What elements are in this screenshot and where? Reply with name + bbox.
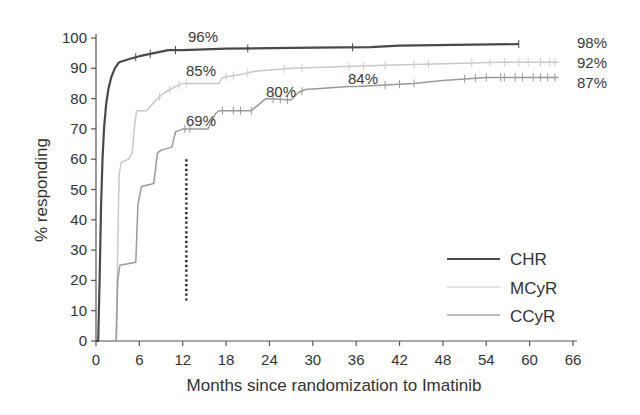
y-tick-label: 0 [79,332,87,349]
series-layer [96,40,559,341]
legend-item-mcyr: MCyR [447,279,557,298]
curve-ccyr [96,77,559,341]
legend-label-chr: CHR [510,250,547,269]
y-tick-label: 30 [70,241,87,258]
x-tick-label: 18 [218,351,235,368]
x-tick-label: 42 [391,351,408,368]
x-tick-label: 66 [565,351,582,368]
x-tick-label: 12 [174,351,191,368]
legend-item-chr: CHR [447,250,547,269]
x-tick-label: 48 [435,351,452,368]
legend-label-mcyr: MCyR [510,279,557,298]
legend: CHR MCyR CCyR [447,250,557,326]
y-tick-label: 10 [70,302,87,319]
legend-item-ccyr: CCyR [447,307,555,326]
y-tick-label: 60 [70,150,87,167]
y-tick-label: 90 [70,59,87,76]
series-ccyr [96,73,559,341]
annotation-chr-98pct: 98% [577,34,607,51]
annotation-ccyr-69pct: 69% [186,112,216,129]
annotation-ccyr-87pct: 87% [577,74,607,91]
y-tick-label: 50 [70,181,87,198]
x-tick-label: 54 [478,351,495,368]
series-chr [96,40,519,341]
x-tick-label: 60 [521,351,538,368]
x-tick-label: 0 [92,351,100,368]
y-axis-title: % responding [32,138,51,242]
annotation-chr-96pct: 96% [188,28,218,45]
series-mcyr [96,58,559,341]
annotation-mcyr-92pct: 92% [577,54,607,71]
x-axis-title: Months since randomization to Imatinib [187,376,482,395]
annotations: 96%85%69%80%84%98%92%87% [186,28,607,129]
y-tick-label: 70 [70,120,87,137]
annotation-ccyr-80pct: 80% [266,83,296,100]
annotation-mcyr-85pct: 85% [186,62,216,79]
annotation-ccyr-84pct: 84% [348,70,378,87]
km-response-chart: 0102030405060708090100061218243036424854… [0,0,640,415]
x-tick-label: 30 [304,351,321,368]
curve-mcyr [96,62,559,341]
y-tick-label: 20 [70,271,87,288]
x-tick-label: 24 [261,351,278,368]
y-tick-label: 80 [70,90,87,107]
y-tick-label: 100 [62,29,87,46]
legend-label-ccyr: CCyR [510,307,555,326]
y-tick-label: 40 [70,211,87,228]
x-tick-label: 36 [348,351,365,368]
chart-canvas: 0102030405060708090100061218243036424854… [0,0,640,415]
x-tick-label: 6 [135,351,143,368]
